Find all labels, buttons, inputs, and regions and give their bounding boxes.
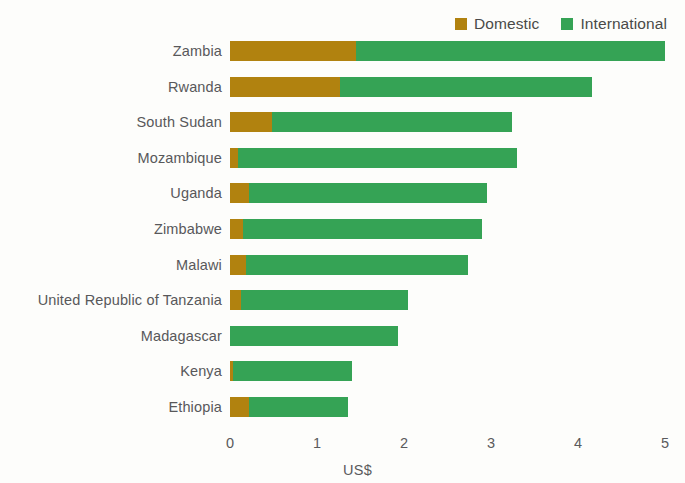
bar-segment-international[interactable] — [272, 112, 512, 132]
bar-segment-domestic[interactable] — [230, 219, 243, 239]
category-label: United Republic of Tanzania — [38, 292, 222, 308]
x-axis: 012345 — [0, 436, 685, 460]
x-tick-label: 5 — [661, 436, 669, 451]
square-swatch-icon — [455, 18, 467, 30]
bar-row: United Republic of Tanzania — [0, 287, 685, 313]
bar-segment-domestic[interactable] — [230, 41, 356, 61]
category-label: Madagascar — [141, 328, 222, 344]
bar-row: Kenya — [0, 358, 685, 384]
stacked-bar-chart: Domestic International ZambiaRwandaSouth… — [0, 0, 685, 483]
x-tick-label: 2 — [400, 436, 408, 451]
bar-row: Zambia — [0, 38, 685, 64]
category-label: Zambia — [173, 43, 222, 59]
bar-segment-international[interactable] — [243, 219, 482, 239]
stacked-bar[interactable] — [230, 290, 408, 310]
stacked-bar[interactable] — [230, 255, 468, 275]
bar-segment-international[interactable] — [249, 183, 487, 203]
bar-segment-international[interactable] — [233, 361, 352, 381]
x-axis-title: US$ — [0, 462, 685, 478]
bar-segment-domestic[interactable] — [230, 290, 241, 310]
bar-segment-international[interactable] — [340, 77, 592, 97]
legend-label-domestic: Domestic — [474, 16, 539, 32]
x-tick-label: 3 — [487, 436, 495, 451]
bar-segment-international[interactable] — [249, 397, 348, 417]
x-tick-label: 1 — [313, 436, 321, 451]
category-label: Malawi — [176, 257, 222, 273]
category-label: Rwanda — [168, 79, 222, 95]
bar-segment-domestic[interactable] — [230, 148, 238, 168]
stacked-bar[interactable] — [230, 183, 487, 203]
bar-segment-international[interactable] — [241, 290, 408, 310]
bar-segment-international[interactable] — [246, 255, 469, 275]
bar-row: Madagascar — [0, 323, 685, 349]
legend-item-international: International — [561, 16, 667, 32]
stacked-bar[interactable] — [230, 361, 352, 381]
stacked-bar[interactable] — [230, 148, 517, 168]
bar-row: Ethiopia — [0, 394, 685, 420]
bar-row: Rwanda — [0, 74, 685, 100]
chart-legend: Domestic International — [455, 14, 667, 34]
bar-segment-domestic[interactable] — [230, 183, 249, 203]
category-label: Ethiopia — [168, 399, 222, 415]
bar-row: Zimbabwe — [0, 216, 685, 242]
stacked-bar[interactable] — [230, 326, 398, 346]
stacked-bar[interactable] — [230, 77, 592, 97]
bar-segment-international[interactable] — [356, 41, 665, 61]
bar-segment-domestic[interactable] — [230, 255, 246, 275]
stacked-bar[interactable] — [230, 41, 665, 61]
bar-segment-international[interactable] — [230, 326, 398, 346]
category-label: Mozambique — [137, 150, 222, 166]
bar-row: South Sudan — [0, 109, 685, 135]
bar-segment-domestic[interactable] — [230, 112, 272, 132]
x-axis-title-text: US$ — [343, 462, 372, 478]
category-label: South Sudan — [137, 114, 223, 130]
category-label: Zimbabwe — [154, 221, 222, 237]
bar-segment-domestic[interactable] — [230, 397, 249, 417]
x-tick-label: 0 — [226, 436, 234, 451]
legend-label-international: International — [580, 16, 667, 32]
legend-item-domestic: Domestic — [455, 16, 539, 32]
x-tick-label: 4 — [574, 436, 582, 451]
category-label: Uganda — [170, 185, 222, 201]
bar-segment-domestic[interactable] — [230, 77, 340, 97]
plot-area: ZambiaRwandaSouth SudanMozambiqueUgandaZ… — [0, 36, 685, 436]
bar-row: Mozambique — [0, 145, 685, 171]
stacked-bar[interactable] — [230, 219, 482, 239]
bar-row: Malawi — [0, 252, 685, 278]
square-swatch-icon — [561, 18, 573, 30]
stacked-bar[interactable] — [230, 112, 512, 132]
bar-segment-international[interactable] — [238, 148, 517, 168]
stacked-bar[interactable] — [230, 397, 348, 417]
bar-row: Uganda — [0, 180, 685, 206]
category-label: Kenya — [180, 363, 222, 379]
